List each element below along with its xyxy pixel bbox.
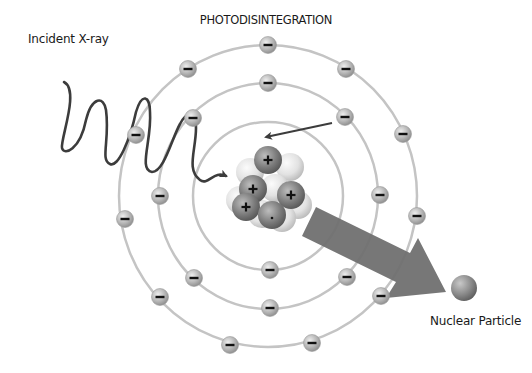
minus-icon (376, 194, 385, 196)
electron (117, 211, 134, 228)
minus-icon (264, 82, 273, 84)
minus-icon (413, 215, 422, 217)
electron (409, 208, 426, 225)
nucleus (226, 146, 312, 232)
electron (180, 61, 197, 78)
diagram-title: PHOTODISINTEGRATION (0, 13, 532, 27)
minus-icon (399, 133, 408, 135)
proton (232, 193, 260, 221)
minus-icon (190, 277, 199, 279)
electron (338, 61, 355, 78)
photodisintegration-diagram: PHOTODISINTEGRATION Incident X-ray Nucle… (0, 0, 532, 373)
electron (304, 335, 321, 352)
minus-icon (226, 344, 235, 346)
electron (152, 188, 169, 205)
minus-icon (264, 44, 273, 46)
minus-icon (132, 134, 141, 136)
electron (372, 187, 389, 204)
electron (260, 37, 277, 54)
minus-icon (266, 307, 275, 309)
proton (254, 146, 282, 174)
minus-icon (377, 295, 386, 297)
electron (373, 288, 390, 305)
nuclear-particle-label: Nuclear Particle (430, 314, 521, 328)
minus-icon (156, 296, 165, 298)
electron (186, 270, 203, 287)
ejected-electron-arrow (266, 123, 332, 137)
electron (260, 75, 277, 92)
minus-icon (156, 195, 165, 197)
minus-icon (121, 218, 130, 220)
electron (395, 126, 412, 143)
electron (262, 262, 279, 279)
proton (258, 201, 286, 229)
incident-xray-label: Incident X-ray (28, 32, 109, 46)
nuclear-particle (451, 275, 477, 301)
electron (337, 109, 354, 126)
electron (128, 127, 145, 144)
electron (262, 300, 279, 317)
minus-icon (342, 68, 351, 70)
electron (152, 289, 169, 306)
minus-icon (308, 342, 317, 344)
minus-icon (184, 68, 193, 70)
electron (339, 269, 356, 286)
electron (222, 337, 239, 354)
electron (185, 110, 202, 127)
minus-icon (341, 116, 350, 118)
minus-icon (343, 276, 352, 278)
minus-icon (266, 269, 275, 271)
minus-icon (189, 117, 198, 119)
